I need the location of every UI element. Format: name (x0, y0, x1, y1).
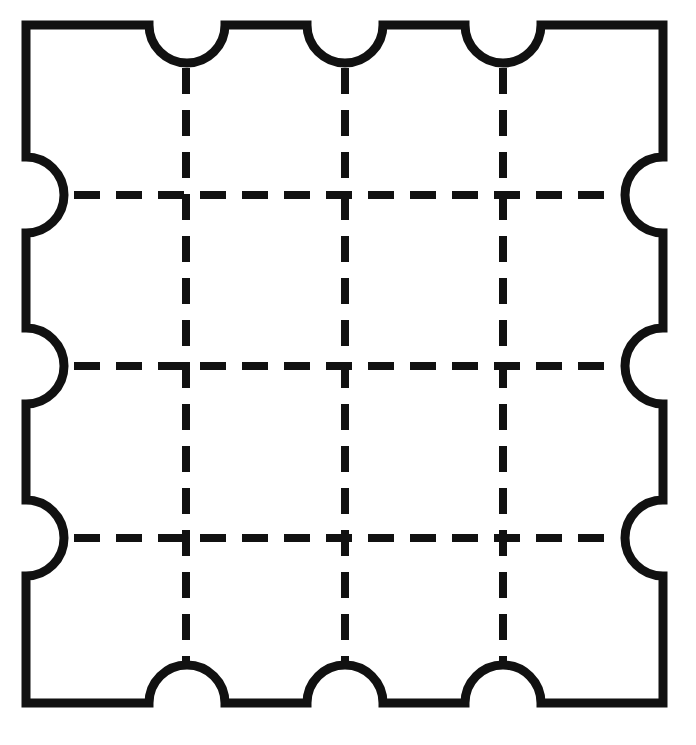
puzzle-tile-figure: Square puzzle tile outline with notched … (0, 0, 696, 745)
